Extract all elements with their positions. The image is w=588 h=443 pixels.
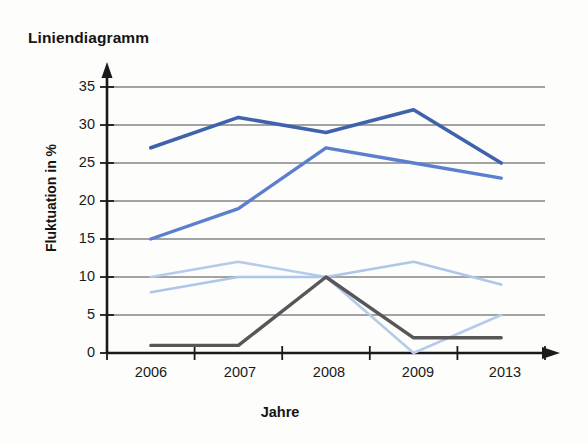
data-line-series-medium-blue: [151, 148, 501, 239]
line-chart-figure: Liniendiagramm Fluktuation in % Jahre 35…: [0, 0, 588, 443]
gridlines: [107, 87, 545, 315]
y-axis-arrowhead: [102, 62, 113, 78]
data-series-layer: [151, 110, 501, 353]
plot-area: [0, 0, 588, 443]
data-line-series-gray: [151, 277, 501, 345]
x-axis-arrowhead: [542, 347, 560, 359]
data-line-series-dark-blue: [151, 110, 501, 163]
